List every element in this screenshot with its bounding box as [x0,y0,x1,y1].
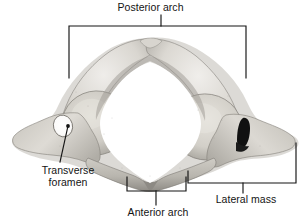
label-transverse-foramen-line1: Transverse [42,164,95,176]
label-posterior-arch: Posterior arch [0,2,301,14]
anatomy-figure: Posterior arch Transverse foramen Anteri… [0,0,301,223]
transverse-foramen-leader-dot [66,124,70,128]
label-transverse-foramen-line2: foramen [22,177,114,189]
label-anterior-arch: Anterior arch [110,207,206,219]
atlas-vertebra-illustration [0,0,301,223]
right-transverse-process [207,114,295,167]
label-transverse-foramen: Transverse foramen [22,165,114,188]
label-lateral-mass: Lateral mass [196,194,296,206]
